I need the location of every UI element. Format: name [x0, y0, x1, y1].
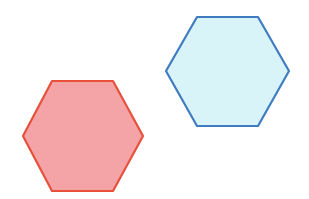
blue-hexagon [166, 17, 289, 126]
red-hexagon [23, 81, 143, 191]
diagram-canvas [0, 0, 309, 199]
